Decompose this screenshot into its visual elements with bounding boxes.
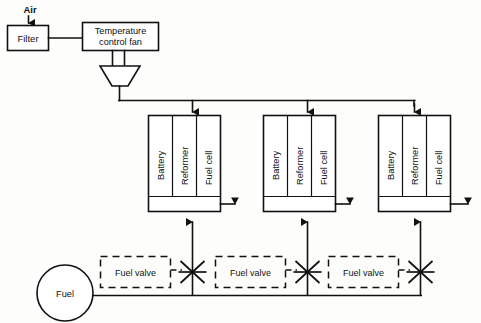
air-inlet-group: Air [23,4,37,23]
module-3-cell-label-reformer: Reformer [410,147,420,185]
power-module-2: Battery Reformer Fuel cell [264,116,351,212]
system-block-diagram: Air Filter Temperature control fan [0,0,481,323]
trapezoid-duct-icon [100,66,140,86]
module-1-cell-label-fuel-cell: Fuel cell [204,151,214,185]
air-inlet-label: Air [23,4,37,15]
module-3-cell-label-battery: Battery [386,150,396,180]
power-module-3: Battery Reformer Fuel cell [379,116,469,212]
module-2-cell-label-battery: Battery [271,150,281,180]
fan-label-line1: Temperature [95,26,147,36]
fuel-valve-label-1[interactable]: Fuel valve [101,257,183,288]
temperature-control-fan-block: Temperature control fan [83,23,159,51]
fan-duct-stems [113,51,125,67]
fuel-source-label: Fuel [56,289,74,299]
module-2-cell-label-fuel-cell: Fuel cell [319,151,329,185]
filter-block: Filter [8,26,49,51]
diagram-canvas: Air Filter Temperature control fan [0,0,481,323]
power-module-1: Battery Reformer Fuel cell [149,116,236,212]
fuel-source-node: Fuel [37,265,93,321]
air-branch-arrows [193,101,415,113]
module-1-cell-label-battery: Battery [156,150,166,180]
fuel-valve-label-3[interactable]: Fuel valve [329,257,411,288]
fuel-valve-label-2[interactable]: Fuel valve [216,257,298,288]
module-3-cell-label-fuel-cell: Fuel cell [434,151,444,185]
fuel-risers [193,222,421,295]
fan-label-line2: control fan [99,37,142,47]
module-1-cell-label-reformer: Reformer [180,147,190,185]
filter-label: Filter [17,33,38,44]
fuel-valve-3-label: Fuel valve [343,268,384,278]
module-2-cell-label-reformer: Reformer [295,147,305,185]
fuel-valve-2-label: Fuel valve [230,268,271,278]
air-distribution-manifold [119,101,415,107]
fuel-valve-1-label: Fuel valve [115,268,156,278]
